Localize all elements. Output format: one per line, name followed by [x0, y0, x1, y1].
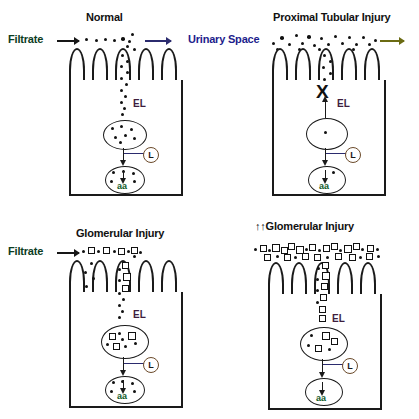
- panel-title-normal: Normal: [86, 11, 123, 23]
- aa-label-pti: aa: [319, 181, 329, 191]
- el-label-sgi: EL: [332, 313, 345, 324]
- urinary-space-label: Urinary Space: [188, 33, 259, 45]
- panel-title-severe-glomerular-injury: ↑↑Glomerular Injury: [255, 220, 354, 232]
- endosome-pti: [306, 118, 348, 150]
- double-up-arrow-icon: ↑↑: [255, 220, 266, 232]
- lysosome-label-pti: L: [350, 150, 356, 160]
- panel-title-glomerular-injury: Glomerular Injury: [76, 227, 164, 239]
- panel-severe-glomerular-injury: ↑↑Glomerular Injury: [210, 205, 419, 419]
- lysosome-connector-normal: [124, 153, 144, 154]
- panel-glomerular-injury: Glomerular Injury Filtrate: [0, 205, 210, 419]
- lysosome-pti: L: [345, 147, 361, 163]
- panel-normal: Normal Filtrate: [0, 0, 210, 205]
- inlet-flow-arrow-normal: [57, 40, 79, 42]
- severe-gi-title-text: Glomerular Injury: [266, 220, 354, 232]
- lysosome-connector-pti: [326, 153, 346, 154]
- endosome-gi: [101, 325, 149, 359]
- lysosome-gi: L: [143, 357, 159, 373]
- el-label-pti: EL: [337, 98, 350, 109]
- panel-proximal-tubular-injury: Proximal Tubular Injury Urinary Space: [210, 0, 419, 205]
- lysosome-connector-gi: [124, 363, 144, 364]
- lysosome-normal: L: [143, 147, 159, 163]
- aa-label-normal: aa: [117, 181, 127, 191]
- brush-border-normal: [69, 48, 183, 82]
- figure-canvas: Normal Filtrate: [0, 0, 419, 419]
- filtrate-label-normal: Filtrate: [8, 33, 43, 45]
- lysosome-connector-sgi: [323, 364, 343, 365]
- outlet-flow-arrow-normal: [145, 40, 171, 42]
- lysosome-label-gi: L: [148, 360, 154, 370]
- lysosome-sgi: L: [342, 358, 358, 374]
- reflux-line-pti: [325, 100, 326, 118]
- brush-border-pti: [272, 48, 386, 82]
- filtrate-label-gi: Filtrate: [8, 245, 43, 257]
- aa-label-sgi: aa: [316, 393, 326, 403]
- el-label-gi: EL: [133, 309, 146, 320]
- aa-label-gi: aa: [117, 391, 127, 401]
- el-label-normal: EL: [133, 98, 146, 109]
- panel-title-proximal-tubular-injury: Proximal Tubular Injury: [273, 11, 390, 23]
- outlet-flow-arrow-pti: [380, 40, 404, 42]
- lysosome-label-sgi: L: [347, 361, 353, 371]
- inlet-flow-arrow-gi: [57, 252, 79, 254]
- lysosome-label-normal: L: [148, 150, 154, 160]
